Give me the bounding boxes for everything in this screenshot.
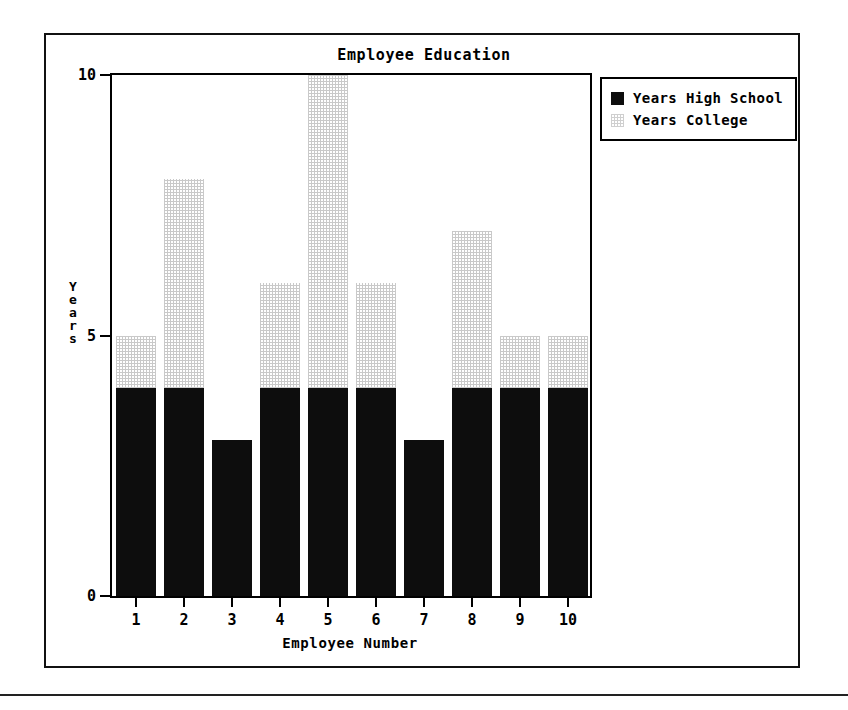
bar-segment-college — [500, 336, 540, 388]
bar-segment-high-school — [260, 388, 300, 596]
x-axis-tick-label: 10 — [559, 611, 577, 629]
chart-legend: Years High School Years College — [600, 77, 797, 141]
bar-segment-high-school — [404, 440, 444, 596]
y-axis-tick — [100, 74, 112, 76]
y-axis-tick-label: 10 — [66, 66, 96, 84]
bars-layer — [112, 75, 592, 596]
bar-group — [500, 336, 540, 597]
x-axis-tick-label: 2 — [179, 611, 188, 629]
bar-segment-high-school — [500, 388, 540, 596]
chart-frame: Employee Education Y e a r s 0510 123456… — [44, 33, 800, 668]
bar-group — [452, 231, 492, 596]
x-axis-tick-label: 4 — [275, 611, 284, 629]
bar-group — [308, 75, 348, 596]
bar-segment-college — [260, 283, 300, 387]
x-axis-tick — [471, 596, 473, 607]
bar-segment-high-school — [212, 440, 252, 596]
y-axis-tick-label: 0 — [66, 587, 96, 605]
x-axis-tick — [519, 596, 521, 607]
chart-title: Employee Education — [46, 46, 802, 64]
bar-segment-high-school — [548, 388, 588, 596]
y-axis-tick — [100, 595, 112, 597]
bar-group — [164, 179, 204, 596]
bar-group — [212, 440, 252, 596]
legend-item: Years High School — [611, 87, 783, 109]
bar-segment-college — [164, 179, 204, 387]
x-axis-tick-label: 3 — [227, 611, 236, 629]
x-axis-tick — [327, 596, 329, 607]
legend-label: Years High School — [633, 90, 783, 106]
bar-segment-high-school — [356, 388, 396, 596]
x-axis-tick — [135, 596, 137, 607]
bar-group — [116, 336, 156, 597]
x-axis-tick — [375, 596, 377, 607]
bar-segment-high-school — [116, 388, 156, 596]
legend-label: Years College — [633, 112, 748, 128]
y-axis-tick — [100, 335, 112, 337]
legend-swatch-college-icon — [611, 114, 624, 127]
x-axis-tick — [231, 596, 233, 607]
bar-segment-college — [452, 231, 492, 387]
bar-group — [356, 283, 396, 596]
bar-segment-high-school — [164, 388, 204, 596]
x-axis-title: Employee Number — [110, 635, 590, 651]
bar-group — [548, 336, 588, 597]
x-axis-tick-label: 5 — [323, 611, 332, 629]
bar-segment-college — [308, 75, 348, 388]
x-axis-tick — [567, 596, 569, 607]
bar-segment-college — [116, 336, 156, 388]
bar-group — [404, 440, 444, 596]
plot-area: 0510 12345678910 — [110, 73, 592, 598]
x-axis-tick-label: 9 — [515, 611, 524, 629]
bar-segment-high-school — [452, 388, 492, 596]
bar-segment-college — [548, 336, 588, 388]
bar-group — [260, 283, 300, 596]
bar-segment-college — [356, 283, 396, 387]
x-axis-tick-label: 1 — [131, 611, 140, 629]
x-axis-tick — [423, 596, 425, 607]
y-axis-tick-label: 5 — [66, 327, 96, 345]
legend-swatch-high-school-icon — [611, 92, 624, 105]
x-axis-tick — [279, 596, 281, 607]
legend-item: Years College — [611, 109, 783, 131]
x-axis-tick-label: 7 — [419, 611, 428, 629]
x-axis-tick — [183, 596, 185, 607]
x-axis-tick-label: 8 — [467, 611, 476, 629]
x-axis-tick-label: 6 — [371, 611, 380, 629]
bar-segment-high-school — [308, 388, 348, 596]
page-bottom-rule — [0, 694, 848, 696]
